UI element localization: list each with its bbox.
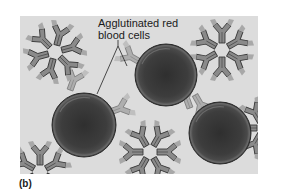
callout-line-1: Agglutinated red xyxy=(98,17,178,29)
red-blood-cell-top-middle xyxy=(135,44,197,106)
callout-label: Agglutinated red blood cells xyxy=(98,17,178,41)
agglutination-figure: Agglutinated red blood cells (b) xyxy=(0,0,281,192)
panel-label: (b) xyxy=(19,178,32,189)
red-blood-cell-right xyxy=(189,102,251,164)
callout-line-2: blood cells xyxy=(98,29,178,41)
red-blood-cell-left xyxy=(52,93,116,157)
